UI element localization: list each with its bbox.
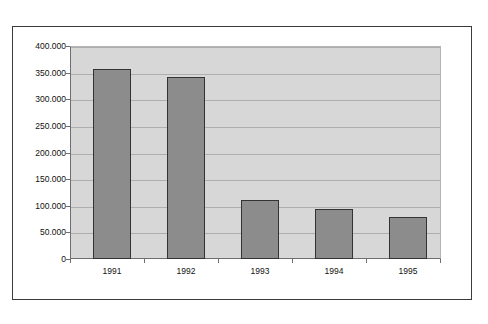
bar-chart: 400.000 350.000 300.000 250.000 200.000 … bbox=[13, 27, 473, 301]
y-axis-labels: 400.000 350.000 300.000 250.000 200.000 … bbox=[13, 46, 66, 259]
bar-1995 bbox=[389, 217, 427, 259]
x-axis-tick-marks bbox=[70, 259, 441, 264]
bar-1992 bbox=[167, 77, 205, 259]
x-tick-mark bbox=[144, 259, 145, 263]
x-tick-mark bbox=[366, 259, 367, 263]
x-axis-tick-label-1993: 1993 bbox=[251, 267, 270, 276]
bar-1993 bbox=[241, 200, 279, 259]
y-axis-tick-label: 400.000 bbox=[14, 42, 66, 51]
y-axis-tick-label: 50.000 bbox=[14, 228, 66, 237]
bar-1994 bbox=[315, 209, 353, 259]
chart-figure-frame: 400.000 350.000 300.000 250.000 200.000 … bbox=[12, 26, 472, 300]
x-axis-tick-label-1992: 1992 bbox=[177, 267, 196, 276]
x-axis-tick-label-1991: 1991 bbox=[103, 267, 122, 276]
x-axis-tick-label-1994: 1994 bbox=[325, 267, 344, 276]
y-axis-tick-label: 0 bbox=[14, 255, 66, 264]
x-axis-labels: 1991 1992 1993 1994 1995 bbox=[70, 267, 441, 281]
x-tick-mark bbox=[292, 259, 293, 263]
x-tick-mark bbox=[440, 259, 441, 263]
bar-1991 bbox=[93, 69, 131, 259]
y-axis-tick-label: 350.000 bbox=[14, 68, 66, 77]
bars-layer bbox=[70, 46, 441, 259]
y-axis-tick-label: 250.000 bbox=[14, 122, 66, 131]
x-axis-tick-label-1995: 1995 bbox=[399, 267, 418, 276]
y-axis-tick-label: 200.000 bbox=[14, 148, 66, 157]
y-axis-tick-label: 150.000 bbox=[14, 175, 66, 184]
y-axis-tick-label: 100.000 bbox=[14, 202, 66, 211]
x-tick-mark bbox=[218, 259, 219, 263]
x-tick-mark bbox=[70, 259, 71, 263]
y-axis-tick-label: 300.000 bbox=[14, 95, 66, 104]
